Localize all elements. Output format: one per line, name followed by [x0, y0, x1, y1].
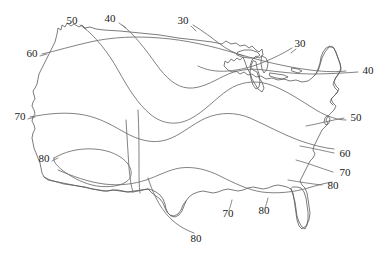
- contour-map-figure: 50 40 30 30 60 40 70 50 80 60 70 80 70 8…: [0, 0, 390, 256]
- contour-label-60-left: 60: [27, 47, 39, 59]
- northeast-maine-outline: [314, 47, 341, 105]
- isoline-50: [83, 27, 346, 123]
- contour-label-60-right: 60: [340, 147, 352, 159]
- contour-label-30-right: 30: [295, 37, 307, 49]
- contour-label-80-bottom-center: 80: [191, 232, 203, 244]
- contour-label-50-top: 50: [67, 14, 79, 26]
- leader-70-left: [28, 117, 35, 119]
- isoline-80-right-tail: [288, 180, 322, 185]
- contour-label-70-left: 70: [15, 110, 27, 122]
- contour-label-40-top: 40: [105, 12, 117, 24]
- us-outline-group: [32, 23, 341, 229]
- contour-label-70-bottom: 70: [223, 207, 235, 219]
- contour-label-30-top: 30: [178, 14, 190, 26]
- leader-30-right: [291, 49, 296, 53]
- isoline-30-right: [198, 48, 292, 71]
- florida-peninsula: [291, 187, 308, 229]
- contour-label-80-right: 80: [328, 179, 340, 191]
- isoline-60-right-tail: [300, 146, 334, 153]
- isoline-70: [30, 113, 334, 149]
- contour-map-canvas: 50 40 30 30 60 40 70 50 80 60 70 80 70 8…: [0, 0, 390, 256]
- contour-label-80-left: 80: [39, 152, 51, 164]
- us-mainland-outline: [32, 23, 341, 229]
- leader-40-top: [119, 23, 126, 28]
- isoline-70-right-tail: [296, 160, 333, 172]
- leader-60-left: [40, 54, 47, 56]
- contour-label-70-right: 70: [340, 166, 352, 178]
- isoline-plains-divider-b: [138, 110, 140, 193]
- contour-label-40-right: 40: [363, 64, 375, 76]
- isoline-80-gulf-branch: [148, 178, 194, 233]
- contour-label-50-right: 50: [351, 111, 363, 123]
- isoline-80-southwest: [54, 149, 131, 187]
- contour-label-group: 50 40 30 30 60 40 70 50 80 60 70 80 70 8…: [15, 12, 375, 244]
- label-leader-group: [28, 23, 296, 161]
- contour-label-80-bottom-right: 80: [259, 204, 271, 216]
- leader-80-left: [52, 158, 58, 161]
